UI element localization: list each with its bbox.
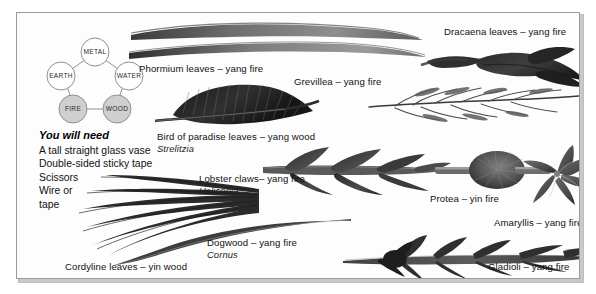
element-label-wood: WOOD (106, 105, 128, 112)
amaryllis-image (515, 145, 579, 207)
phormium-leaves-image (129, 19, 429, 65)
label-lobster-claws: Lobster claws– yang fire Heliconia (199, 173, 305, 196)
you-will-need-item: Wire or (39, 184, 152, 197)
label-bird-of-paradise: Bird of paradise leaves – yang wood Stre… (157, 131, 315, 154)
label-lobster-claws-latin: Heliconia (199, 185, 305, 197)
five-element-diagram: METAL EARTH WATER FIRE WOOD (39, 35, 151, 127)
label-amaryllis-text: Amaryllis – yang fire (494, 217, 579, 228)
grevillea-image (365, 83, 579, 123)
illustration-plate: METAL EARTH WATER FIRE WOOD You will nee… (16, 12, 580, 279)
page-root: METAL EARTH WATER FIRE WOOD You will nee… (0, 0, 596, 294)
label-protea: Protea – yin fire (430, 193, 499, 205)
label-amaryllis: Amaryllis – yang fire (494, 217, 579, 229)
label-bird-of-paradise-text: Bird of paradise leaves – yang wood (157, 131, 315, 142)
label-cordyline: Cordyline leaves – yin wood (65, 261, 187, 273)
label-gladioli-text: Gladioli – yang fire (488, 261, 569, 272)
element-label-metal: METAL (84, 48, 107, 55)
element-label-earth: EARTH (49, 72, 73, 79)
label-grevillea-text: Grevillea – yang fire (294, 76, 381, 87)
you-will-need-item: tape (39, 198, 152, 211)
label-dogwood-text: Dogwood – yang fire (207, 237, 297, 248)
label-dracaena: Dracaena leaves – yang fire (444, 26, 566, 38)
label-dracaena-text: Dracaena leaves – yang fire (444, 26, 566, 37)
element-label-water: WATER (117, 72, 142, 79)
you-will-need-item: Double-sided sticky tape (39, 157, 152, 170)
label-dogwood: Dogwood – yang fire Cornus (207, 237, 297, 260)
label-dogwood-latin: Cornus (207, 249, 297, 261)
label-lobster-claws-text: Lobster claws– yang fire (199, 173, 305, 184)
label-phormium-text: Phormium leaves – yang fire (139, 63, 263, 74)
label-protea-text: Protea – yin fire (430, 193, 499, 204)
label-grevillea: Grevillea – yang fire (294, 76, 381, 88)
label-gladioli: Gladioli – yang fire (488, 261, 569, 273)
label-phormium: Phormium leaves – yang fire (139, 63, 263, 75)
element-label-fire: FIRE (65, 105, 82, 112)
label-bird-of-paradise-latin: Strelitzia (157, 143, 315, 155)
label-cordyline-text: Cordyline leaves – yin wood (65, 261, 187, 272)
you-will-need-item: Scissors (39, 171, 152, 184)
you-will-need-item: A tall straight glass vase (39, 144, 152, 157)
you-will-need-list: A tall straight glass vase Double-sided … (39, 144, 152, 211)
plate-inner: METAL EARTH WATER FIRE WOOD You will nee… (17, 13, 579, 278)
you-will-need-heading: You will need (39, 129, 109, 141)
